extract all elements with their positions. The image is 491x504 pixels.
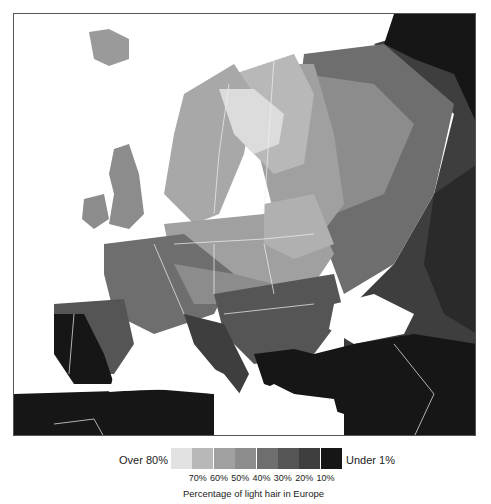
map-graphic xyxy=(14,14,476,436)
legend-swatch-3 xyxy=(235,448,256,469)
legend-swatch-0 xyxy=(171,448,192,469)
europe-map xyxy=(13,13,476,436)
legend-swatch-5 xyxy=(278,448,299,469)
legend-tick: 70% xyxy=(187,473,208,483)
legend-tick: 50% xyxy=(230,473,251,483)
legend-tick: 20% xyxy=(293,473,314,483)
legend: Over 80% Under 1% 70% 60% 50% 40% 30% 20… xyxy=(0,446,491,504)
legend-tick: 10% xyxy=(315,473,336,483)
legend-swatch-6 xyxy=(299,448,320,469)
legend-swatches xyxy=(171,448,342,469)
legend-low-label: Over 80% xyxy=(119,454,168,466)
legend-swatch-1 xyxy=(192,448,213,469)
legend-swatch-7 xyxy=(321,448,342,469)
legend-tick: 60% xyxy=(208,473,229,483)
legend-swatch-4 xyxy=(257,448,278,469)
legend-ticks: 70% 60% 50% 40% 30% 20% 10% xyxy=(187,473,336,483)
legend-caption: Percentage of light hair in Europe xyxy=(0,488,491,499)
legend-tick: 40% xyxy=(251,473,272,483)
legend-tick: 30% xyxy=(272,473,293,483)
legend-swatch-2 xyxy=(214,448,235,469)
legend-high-label: Under 1% xyxy=(346,454,395,466)
